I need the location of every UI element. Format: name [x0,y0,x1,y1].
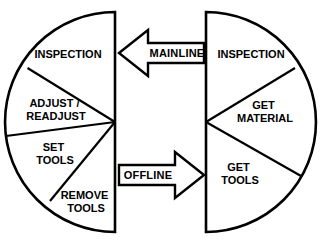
left-segment-label-remove-tools: REMOVE TOOLS [61,189,112,214]
mainline-arrow-group: MAINLINE [119,30,204,76]
right-segment-label-inspection: INSPECTION [217,48,284,60]
diagram-canvas: INSPECTION ADJUST / READJUST SET TOOLS R… [0,0,322,252]
left-half-circle-group: INSPECTION ADJUST / READJUST SET TOOLS R… [5,12,115,232]
left-segment-label-adjust-readjust: ADJUST / READJUST [26,97,86,122]
left-segment-label-inspection: INSPECTION [34,48,101,60]
right-half-circle-group: INSPECTION GET MATERIAL GET TOOLS [206,12,316,232]
mainline-arrow-label: MAINLINE [150,47,205,59]
offline-arrow-label: OFFLINE [124,169,172,181]
process-cycle-diagram: INSPECTION ADJUST / READJUST SET TOOLS R… [0,0,322,252]
offline-arrow-group: OFFLINE [119,152,204,198]
